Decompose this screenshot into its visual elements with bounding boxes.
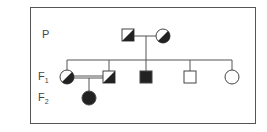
f1-female-carrier-circle [60, 70, 74, 84]
f2-female-affected-circle [82, 91, 96, 105]
f1-male-affected-square [140, 71, 152, 83]
p-father-carrier-square [122, 29, 134, 41]
pedigree-chart [0, 0, 267, 132]
f1-male-unaffected-square [184, 71, 196, 83]
f1-female-unaffected-circle [225, 70, 239, 84]
p-mother-carrier-circle [156, 29, 170, 43]
f1-male-carrier-square [103, 71, 115, 83]
